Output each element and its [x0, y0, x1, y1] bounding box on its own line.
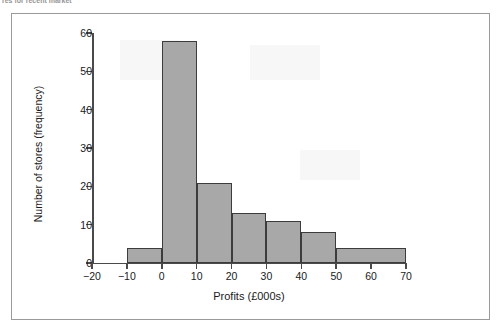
x-axis-tick [91, 263, 93, 269]
x-axis-tick [126, 263, 128, 269]
x-axis-tick [370, 263, 372, 269]
x-axis-tick [196, 263, 198, 269]
x-axis-tick [301, 263, 303, 269]
x-axis-tick [335, 263, 337, 269]
histogram-bar [197, 183, 232, 264]
y-axis-tick-label: 30 [70, 143, 92, 153]
x-axis-tick [231, 263, 233, 269]
y-axis-tick-label: 20 [70, 181, 92, 191]
y-axis-tick-label: 50 [70, 66, 92, 76]
x-axis-tick [405, 263, 407, 269]
x-axis-line [92, 263, 406, 265]
histogram-bar [127, 248, 162, 263]
y-axis-tick-label: 60 [70, 28, 92, 38]
x-axis-tick [161, 263, 163, 269]
histogram-bar [162, 41, 197, 263]
y-axis-tick-label: 40 [70, 105, 92, 115]
x-axis-tick-label: 70 [386, 271, 426, 282]
histogram-bar [301, 232, 336, 263]
histogram-bar [266, 221, 301, 263]
histogram-plot: 0102030405060 −20−10010203040506070 Numb… [0, 0, 503, 334]
histogram-bar [336, 248, 406, 263]
x-axis-tick [266, 263, 268, 269]
x-axis-title: Profits (£000s) [92, 290, 406, 302]
y-axis-line [92, 33, 94, 264]
y-axis-tick-label: 0 [70, 258, 92, 268]
histogram-bar [232, 213, 267, 263]
y-axis-title: Number of stores (frequency) [32, 59, 44, 249]
y-axis-tick-label: 10 [70, 220, 92, 230]
